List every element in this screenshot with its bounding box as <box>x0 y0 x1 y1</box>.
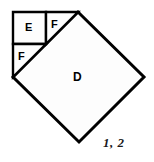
geometry-figure: D E F F 1, 2 <box>0 0 154 162</box>
shape-label-f-upper: F <box>51 19 58 30</box>
shape-label-d: D <box>73 71 82 83</box>
shape-label-f-lower: F <box>18 51 25 62</box>
figure-caption: 1, 2 <box>103 135 125 151</box>
shape-label-e: E <box>25 22 32 33</box>
